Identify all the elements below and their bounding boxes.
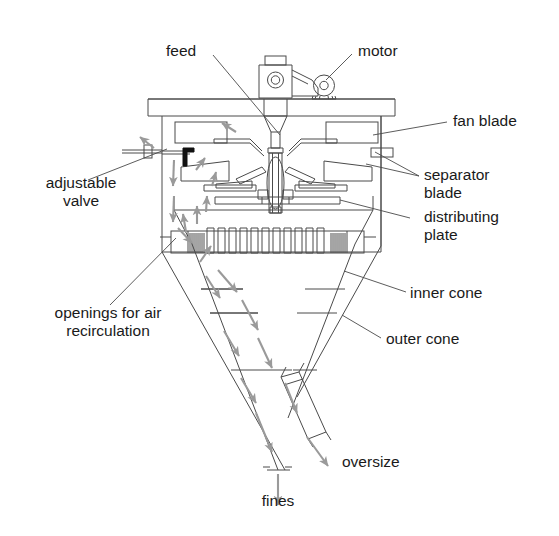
fan-blade-left — [175, 122, 227, 143]
leader-separator-blade-2 — [366, 164, 419, 176]
distributing-plate — [215, 197, 340, 204]
separator-blade-assembly — [181, 161, 372, 199]
leader-outer-cone — [342, 315, 381, 338]
leader-inner-cone — [344, 271, 406, 292]
fan-blade-right — [326, 122, 378, 143]
label-adjustable-valve: adjustable valve — [16, 174, 146, 210]
label-fan-blade: fan blade — [453, 112, 517, 130]
fan-blade-assembly — [175, 122, 393, 157]
air-classifier-diagram — [0, 0, 559, 536]
label-feed: feed — [166, 42, 196, 60]
motor-assembly — [259, 56, 336, 99]
leader-openings — [110, 238, 176, 305]
label-openings-for-air-recirculation: openings for air recirculation — [22, 304, 194, 340]
leader-distributing-plate — [340, 200, 410, 218]
feed-funnel — [264, 99, 287, 153]
top-lid — [148, 99, 395, 116]
label-motor: motor — [358, 42, 398, 60]
label-distributing-plate: distributing plate — [424, 208, 499, 244]
oversize-chute — [281, 363, 331, 447]
air-recirculation-openings — [160, 228, 376, 253]
label-inner-cone: inner cone — [410, 284, 482, 302]
label-separator-blade: separator blade — [424, 166, 489, 202]
leader-motor — [326, 54, 352, 80]
label-outer-cone: outer cone — [386, 330, 459, 348]
inner-cone — [192, 244, 355, 470]
diagram-canvas: feed motor fan blade separator blade dis… — [0, 0, 559, 536]
outer-cone — [162, 246, 381, 470]
label-oversize: oversize — [342, 453, 400, 471]
leader-fan-blade — [373, 122, 447, 135]
leader-separator-blade-1 — [375, 152, 419, 176]
label-fines: fines — [238, 492, 318, 510]
